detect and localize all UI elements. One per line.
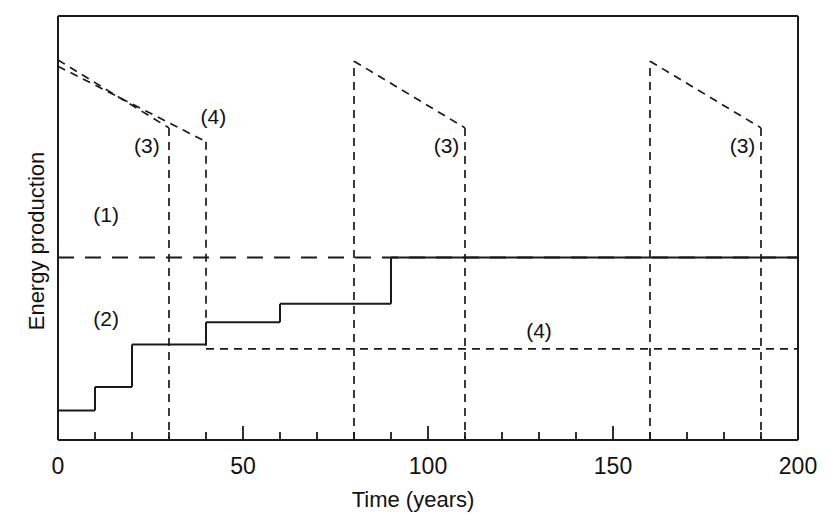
- series-3-decay: [650, 61, 761, 128]
- x-tick-label: 50: [213, 453, 273, 480]
- curve-annotation: (3): [126, 134, 168, 158]
- curve-annotation: (1): [85, 203, 127, 227]
- series-3-decay: [354, 61, 465, 128]
- curve-annotation: (3): [426, 134, 468, 158]
- x-tick-label: 0: [28, 453, 88, 480]
- series-3-sawtooth: [58, 60, 761, 440]
- x-tick-label: 100: [398, 453, 458, 480]
- series-4-decay: [58, 66, 206, 141]
- y-axis-title: Energy production: [24, 126, 50, 356]
- x-tick-label: 200: [768, 453, 826, 480]
- x-axis-title: Time (years): [0, 487, 826, 513]
- chart-plot-area: [0, 0, 826, 521]
- x-axis-title-text: Time (years): [352, 487, 475, 512]
- x-tick-label: 150: [583, 453, 643, 480]
- x-axis-ticks: [95, 426, 761, 440]
- curve-annotation: (3): [722, 134, 764, 158]
- curve-annotation: (4): [518, 319, 560, 343]
- series-4-decay: [58, 66, 798, 349]
- chart-figure: 050100150200 (1)(2)(3)(4)(3)(4)(3) Energ…: [0, 0, 826, 521]
- curve-annotation: (2): [85, 307, 127, 331]
- y-axis-title-text: Energy production: [24, 152, 49, 331]
- curve-annotation: (4): [192, 105, 234, 129]
